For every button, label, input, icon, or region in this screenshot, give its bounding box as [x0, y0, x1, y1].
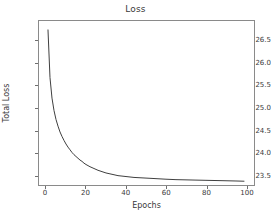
x-tick-mark	[126, 186, 127, 189]
x-tick-mark	[247, 186, 248, 189]
x-tick-label: 0	[43, 189, 47, 197]
x-tick-mark	[45, 186, 46, 189]
x-tick-label: 100	[240, 189, 253, 197]
x-tick-label: 20	[81, 189, 90, 197]
x-tick-label: 40	[121, 189, 130, 197]
x-tick-mark	[85, 186, 86, 189]
x-tick-mark	[207, 186, 208, 189]
loss-chart-figure: Loss Total Loss 23.524.024.525.025.526.0…	[0, 0, 271, 223]
y-axis-label: Total Loss	[2, 84, 11, 123]
x-tick-label: 80	[202, 189, 211, 197]
x-tick-mark	[166, 186, 167, 189]
y-axis-label-container: Total Loss	[0, 20, 12, 186]
chart-title: Loss	[0, 4, 271, 14]
x-tick-label: 60	[162, 189, 171, 197]
x-axis-label: Epochs	[38, 201, 255, 210]
loss-curve-line	[48, 30, 244, 181]
plot-area	[38, 20, 255, 186]
loss-curve-svg	[39, 21, 254, 185]
